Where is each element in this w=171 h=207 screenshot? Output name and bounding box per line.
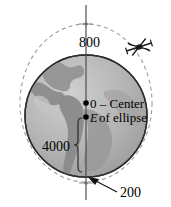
earth-center-point-marker (83, 114, 89, 120)
orbit-diagram-canvas (0, 0, 171, 207)
perigee-point-marker (84, 181, 88, 185)
satellite-icon (124, 36, 153, 58)
perigee-arrowhead (88, 177, 99, 185)
ellipse-center-label-line1: 0 – Center (90, 97, 144, 110)
ellipse-center-point-marker (83, 100, 89, 106)
apogee-altitude-label: 800 (79, 36, 100, 50)
apogee-point-marker (84, 22, 88, 26)
earth-radius-label: 4000 (42, 140, 70, 154)
perigee-altitude-label: 200 (120, 186, 141, 200)
orbit-diagram: 800 200 4000 0 – Center of ellipse E (0, 0, 171, 207)
earth-center-label: E (90, 112, 97, 124)
perigee-leader-line (94, 180, 117, 192)
ellipse-center-label-line2: of ellipse (99, 111, 147, 124)
